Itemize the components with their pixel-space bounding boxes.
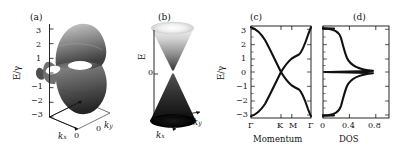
- panel-b: (b) E 0: [110, 0, 205, 159]
- panel-b-kx-label: kx: [156, 130, 165, 140]
- panel-c-xtick-k: K: [277, 121, 283, 130]
- panel-a-origin-left: 0: [74, 131, 79, 140]
- panel-d-xtick-0: 0: [320, 121, 325, 130]
- panel-c-xtick-m: M: [289, 121, 297, 130]
- panel-b-ky-label: ky: [193, 117, 202, 127]
- panel-a-origin-right: 0: [96, 124, 101, 133]
- panel-c-xtick-gamma1: Γ: [248, 121, 254, 130]
- panel-c-xlabel: Momentum: [253, 134, 302, 144]
- panel-a: (a) E/γ 3 2 1 0 −1 −2 −3: [0, 0, 110, 159]
- panel-a-kx-label: kx: [58, 131, 67, 141]
- panel-c: (c) E/γ 3 2 1 0 −1 −2 −3: [205, 0, 313, 159]
- panel-a-plot: [0, 0, 110, 159]
- panel-d-xtick-08: 0.8: [368, 121, 381, 130]
- panel-d-xlabel: DOS: [339, 134, 359, 144]
- figure-root: (a) E/γ 3 2 1 0 −1 −2 −3: [0, 0, 407, 159]
- panel-d: (d): [313, 0, 407, 159]
- panel-d-plot: [313, 0, 407, 159]
- panel-d-xtick-04: 0.4: [342, 121, 355, 130]
